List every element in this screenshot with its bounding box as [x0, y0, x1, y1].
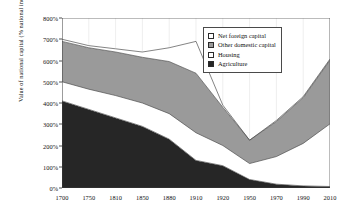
y-tick-mark: [59, 18, 62, 19]
plot-area: 0%100%200%300%400%500%600%700%800% 17001…: [62, 18, 330, 188]
legend-label: Housing: [218, 52, 240, 58]
y-tick-mark: [59, 124, 62, 125]
x-tick-label: 1950: [243, 194, 256, 201]
legend-label: Agriculture: [218, 61, 247, 67]
x-tick-label: 1990: [297, 194, 310, 201]
y-tick-label: 300%: [43, 121, 58, 128]
x-tick-label: 1880: [163, 194, 176, 201]
legend-label: Net foreign capital: [218, 33, 266, 39]
y-tick-mark: [59, 166, 62, 167]
y-tick-mark: [59, 103, 62, 104]
x-tick-label: 2010: [324, 194, 337, 201]
y-tick-mark: [59, 81, 62, 82]
y-tick-mark: [59, 188, 62, 189]
x-tick-label: 1920: [216, 194, 229, 201]
y-tick-label: 800%: [43, 15, 58, 22]
y-tick-mark: [59, 60, 62, 61]
legend-item-net-foreign-capital: Net foreign capital: [208, 31, 276, 41]
chart-container: Value of national capital (% national in…: [0, 0, 340, 224]
y-tick-label: 200%: [43, 142, 58, 149]
legend-item-housing: Housing: [208, 50, 276, 60]
y-axis-title: Value of national capital (% national in…: [17, 0, 24, 124]
y-tick-label: 400%: [43, 100, 58, 107]
y-tick-label: 500%: [43, 78, 58, 85]
chart-legend: Net foreign capital Other domestic capit…: [203, 27, 282, 73]
x-tick-label: 1970: [270, 194, 283, 201]
legend-item-agriculture: Agriculture: [208, 60, 276, 70]
y-tick-label: 100%: [43, 163, 58, 170]
legend-swatch-icon: [208, 61, 214, 67]
legend-swatch-icon: [208, 52, 214, 58]
legend-swatch-icon: [208, 42, 214, 48]
y-tick-mark: [59, 39, 62, 40]
legend-swatch-icon: [208, 33, 214, 39]
legend-item-other-domestic-capital: Other domestic capital: [208, 41, 276, 51]
y-tick-label: 600%: [43, 57, 58, 64]
x-tick-label: 1850: [136, 194, 149, 201]
x-tick-label: 1750: [82, 194, 95, 201]
x-tick-label: 1910: [190, 194, 203, 201]
x-tick-label: 1700: [56, 194, 69, 201]
legend-label: Other domestic capital: [218, 42, 276, 48]
stacked-area-plot: [62, 18, 330, 188]
y-tick-label: 0%: [49, 185, 58, 192]
y-tick-label: 700%: [43, 36, 58, 43]
y-tick-mark: [59, 145, 62, 146]
x-tick-label: 1810: [109, 194, 122, 201]
